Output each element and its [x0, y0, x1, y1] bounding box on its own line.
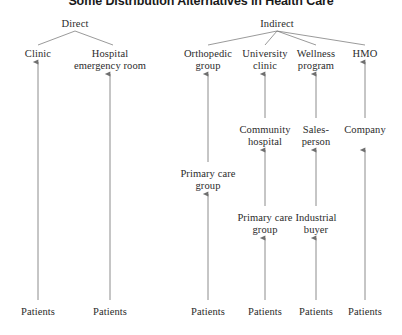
node-patients-6: Patients [348, 306, 382, 318]
page-title: Some Distribution Alternatives in Health… [0, 0, 402, 8]
node-patients-3: Patients [191, 306, 225, 318]
branch-edge-indirect-to-hmo [277, 31, 365, 45]
node-primary-care-1: Primary care group [180, 168, 235, 192]
node-hospital-er: Hospital emergency room [74, 48, 146, 72]
node-orthopedic-group: Orthopedic group [184, 48, 232, 72]
node-company: Company [344, 124, 386, 136]
node-patients-4: Patients [248, 306, 282, 318]
node-indirect: Indirect [260, 18, 293, 30]
branch-edge-indirect-to-orthopedic-group [208, 31, 277, 45]
health-care-distribution-diagram: Some Distribution Alternatives in Health… [0, 0, 402, 335]
node-patients-5: Patients [299, 306, 333, 318]
node-patients-1: Patients [21, 306, 55, 318]
node-clinic: Clinic [25, 48, 51, 60]
branch-edge-indirect-to-university-clinic [265, 31, 277, 45]
node-hmo: HMO [353, 48, 378, 60]
node-industrial-buyer: Industrial buyer [295, 212, 336, 236]
node-university-clinic: University clinic [242, 48, 287, 72]
branch-edge-group [38, 31, 365, 45]
node-primary-care-2: Primary care group [237, 212, 292, 236]
node-salesperson: Sales- person [302, 124, 331, 148]
node-wellness-program: Wellness program [297, 48, 335, 72]
node-community-hospital: Community hospital [239, 124, 290, 148]
node-direct: Direct [62, 18, 89, 30]
branch-edge-indirect-to-wellness-program [277, 31, 316, 45]
node-patients-2: Patients [93, 306, 127, 318]
branch-edge-direct-to-clinic [38, 31, 75, 45]
branch-edge-direct-to-hospital-er [75, 31, 113, 45]
